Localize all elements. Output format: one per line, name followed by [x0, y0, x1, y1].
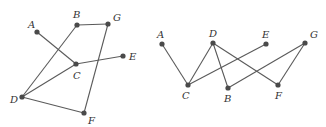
- node-f: [275, 82, 280, 87]
- edge-b-g: [77, 24, 108, 25]
- graph-diagram: ABGCEDFADEGCBF: [0, 0, 326, 127]
- edge-a-c: [162, 44, 188, 85]
- node-c: [185, 82, 190, 87]
- graph-canvas: ABGCEDFADEGCBF: [0, 0, 326, 127]
- node-e: [263, 41, 268, 46]
- edge-g-f: [84, 24, 108, 113]
- node-label-b: B: [72, 9, 80, 20]
- node-a: [34, 29, 39, 34]
- node-b: [225, 85, 230, 90]
- node-label-d: D: [208, 28, 217, 39]
- node-label-c: C: [182, 90, 190, 101]
- edge-a-c: [37, 32, 76, 64]
- node-label-f: F: [87, 115, 96, 126]
- node-label-e: E: [128, 51, 137, 62]
- node-label-c: C: [73, 70, 81, 81]
- node-d: [210, 40, 215, 45]
- node-f: [81, 110, 86, 115]
- edge-b-d: [22, 25, 77, 97]
- node-label-f: F: [274, 90, 283, 101]
- node-label-g: G: [113, 12, 121, 23]
- node-d: [19, 94, 24, 99]
- node-label-a: A: [156, 29, 164, 40]
- edge-g-f: [278, 43, 305, 85]
- node-g: [302, 40, 307, 45]
- node-e: [120, 53, 125, 58]
- node-label-e: E: [261, 29, 270, 40]
- node-label-a: A: [27, 19, 35, 30]
- node-label-b: B: [223, 93, 231, 104]
- node-g: [105, 21, 110, 26]
- edge-c-d: [22, 64, 76, 97]
- edge-d-f: [22, 97, 84, 113]
- edge-g-b: [228, 43, 305, 88]
- graph-left: ABGCEDF: [9, 9, 137, 126]
- node-a: [159, 41, 164, 46]
- node-b: [74, 22, 79, 27]
- node-label-d: D: [9, 94, 18, 105]
- node-c: [73, 61, 78, 66]
- graph-right: ADEGCBF: [156, 28, 318, 104]
- node-label-g: G: [310, 29, 318, 40]
